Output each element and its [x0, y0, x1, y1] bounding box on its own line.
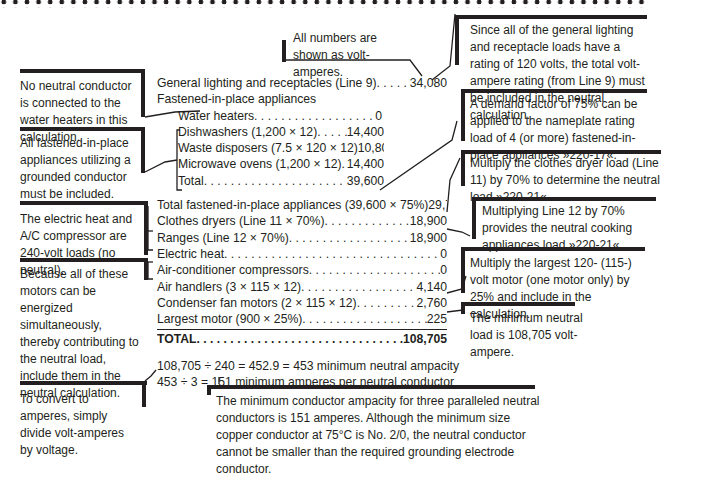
right-note-bar	[461, 150, 465, 186]
table-row: Dishwashers (1,200 × 12)14,400	[157, 124, 384, 140]
right-note-minimum-load: The minimum neutral load is 108,705 volt…	[470, 310, 590, 361]
table-row: Microwave ovens (1,200 × 12)14,400	[157, 156, 384, 172]
header-note: All numbers are shown as volt-amperes.	[293, 30, 413, 81]
table-row: Clothes dryers (Line 11 × 70%)18,900	[157, 213, 447, 229]
table-row: Ranges (Line 12 × 70%)18,900	[157, 230, 447, 246]
table-total-row: TOTAL108,705	[157, 329, 447, 347]
left-note-bar	[141, 69, 145, 117]
right-note-bar	[455, 15, 459, 65]
right-note-bar	[461, 247, 645, 251]
left-note-bar	[141, 127, 145, 173]
table-row: Air-conditioner compressors0	[157, 262, 447, 278]
right-note-bar	[455, 15, 647, 19]
table-row: Fastened-in-place appliances	[157, 91, 447, 107]
left-note-bar	[144, 201, 148, 255]
table-row: Air handlers (3 × 115 × 12)4,140	[157, 279, 447, 295]
table-row: Waste disposers (7.5 × 120 × 12)10,800	[157, 140, 384, 156]
left-note-bar	[20, 201, 147, 205]
table-row: Electric heat0	[157, 246, 447, 262]
left-note-bar	[142, 381, 146, 407]
left-note-bar	[20, 258, 147, 262]
left-note-bar	[144, 258, 148, 280]
table-row: General lighting and receptacles (Line 9…	[157, 75, 447, 91]
table-row: Largest motor (900 × 25%)225	[157, 311, 447, 327]
right-note-bar	[461, 302, 465, 314]
right-note-bar	[461, 89, 647, 93]
calc-line: 108,705 ÷ 240 = 452.9 = 453 minimum neut…	[157, 358, 459, 374]
right-note-bar	[472, 197, 476, 239]
table-row: Total fastened-in-place appliances (39,6…	[157, 197, 447, 213]
table-row: Total39,600	[157, 173, 384, 189]
neutral-load-table: General lighting and receptacles (Line 9…	[157, 75, 447, 348]
table-row: Condenser fan motors (2 × 115 × 12)2,760	[157, 295, 447, 311]
left-note-bar	[20, 127, 145, 131]
left-note-bar	[20, 69, 145, 73]
bottom-note-bar	[207, 385, 211, 395]
left-note-fastened-appliances: All fastened-in-place appliances utilizi…	[20, 135, 140, 203]
header-note-bar	[282, 40, 286, 62]
table-row: Water heaters0	[157, 108, 447, 124]
right-note-bar	[461, 89, 465, 141]
right-note-bar	[461, 302, 575, 306]
bottom-note-conductor-size: The minimum conductor ampacity for three…	[216, 393, 546, 478]
right-note-bar	[472, 197, 656, 201]
left-note-convert-amperes: To convert to amperes, simply divide vol…	[20, 391, 140, 459]
left-note-bar	[20, 381, 147, 385]
bottom-note-bar	[207, 385, 535, 389]
right-note-bar	[461, 247, 465, 293]
right-note-bar	[461, 150, 661, 154]
